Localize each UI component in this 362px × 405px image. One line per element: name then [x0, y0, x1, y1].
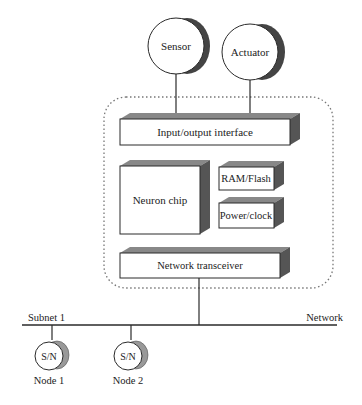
network-transceiver-box: Network transceiver	[120, 247, 290, 278]
lonworks-node-diagram: Sensor Actuator Input/output interface N…	[0, 0, 362, 405]
actuator-device: Actuator	[222, 24, 285, 113]
sensor-device: Sensor	[148, 18, 210, 113]
node-1-symbol: S/N	[41, 351, 57, 362]
subnet-node-1: S/N Node 1	[34, 325, 69, 386]
subnet-label: Subnet 1	[28, 312, 65, 323]
node-2-label: Node 2	[113, 375, 144, 386]
subnet-node-2: S/N Node 2	[113, 325, 148, 386]
node-2-symbol: S/N	[120, 351, 136, 362]
io-interface-label: Input/output interface	[157, 126, 253, 138]
io-interface-box: Input/output interface	[120, 113, 300, 145]
ram-flash-label: RAM/Flash	[221, 173, 271, 184]
neuron-chip-box: Neuron chip	[120, 160, 210, 234]
actuator-label: Actuator	[231, 46, 270, 58]
power-clock-box: Power/clock	[219, 197, 284, 228]
network-label: Network	[306, 312, 343, 323]
node-1-label: Node 1	[34, 375, 65, 386]
power-clock-label: Power/clock	[220, 210, 273, 221]
sensor-label: Sensor	[161, 40, 191, 52]
network-transceiver-label: Network transceiver	[157, 260, 243, 271]
ram-flash-box: RAM/Flash	[219, 161, 284, 190]
neuron-chip-label: Neuron chip	[133, 194, 188, 206]
